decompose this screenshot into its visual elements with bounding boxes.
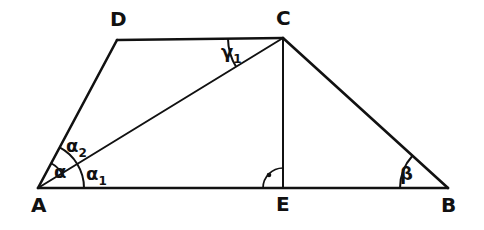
edge-ac-diagonal <box>38 38 283 188</box>
vertex-label-c: C <box>276 6 291 30</box>
angle-label-alpha2: α2 <box>66 135 87 160</box>
vertex-label-e: E <box>276 192 290 216</box>
right-angle-dot-e <box>267 173 272 178</box>
angle-label-beta: β <box>400 163 413 184</box>
edge-cb <box>283 38 448 188</box>
angle-label-alpha1: α1 <box>86 163 107 188</box>
vertex-label-a: A <box>31 193 47 217</box>
angle-label-gamma1: γ1 <box>221 41 242 66</box>
angle-arc-alpha1 <box>77 164 84 188</box>
edge-dc <box>117 38 283 40</box>
geometry-diagram: A B C D E α α2 α1 γ1 β <box>0 0 484 230</box>
vertex-label-d: D <box>110 7 127 31</box>
geometry-canvas: A B C D E α α2 α1 γ1 β <box>0 0 484 230</box>
right-angle-arc-e <box>263 168 283 188</box>
angle-label-alpha: α <box>54 161 66 182</box>
vertex-label-b: B <box>441 193 456 217</box>
